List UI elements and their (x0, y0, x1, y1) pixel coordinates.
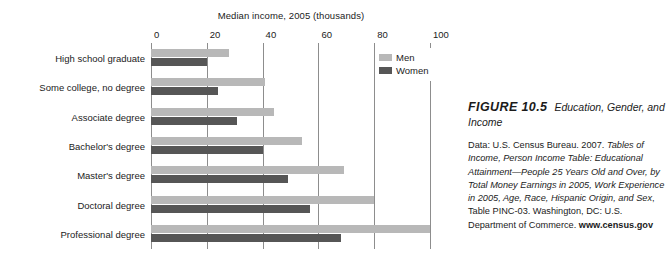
bar-women (151, 87, 218, 95)
x-tick-label-20: 20 (207, 29, 221, 40)
figure-heading: FIGURE 10.5Education, Gender, and Income (468, 100, 669, 130)
bar-group: Associate degree (151, 102, 430, 131)
bar-men (151, 196, 374, 204)
legend-label: Men (396, 51, 414, 64)
category-label: Some college, no degree (39, 82, 145, 93)
caption-panel: FIGURE 10.5Education, Gender, and Income… (468, 0, 669, 268)
bar-group: Professional degree (151, 220, 430, 249)
bar-group: Master's degree (151, 161, 430, 190)
x-tick-label-100: 100 (430, 29, 449, 40)
legend-swatch-women-icon (379, 67, 392, 74)
figure-number: FIGURE 10.5 (468, 100, 547, 114)
bar-women (151, 117, 237, 125)
bar-group: Bachelor's degree (151, 131, 430, 160)
chart-title: Median income, 2005 (thousands) (151, 10, 431, 21)
bar-men (151, 108, 274, 116)
x-tick-label-60: 60 (318, 29, 332, 40)
bar-group: Doctoral degree (151, 190, 430, 219)
bar-women (151, 205, 310, 213)
category-label: Professional degree (61, 229, 146, 240)
bar-men (151, 225, 430, 233)
caption-url-link[interactable]: www.census.gov (579, 220, 653, 230)
bar-women (151, 234, 341, 242)
figure-container: { "chart_data": { "type": "bar", "orient… (0, 0, 669, 268)
bar-women (151, 58, 207, 66)
bar-men (151, 49, 229, 57)
legend-label: Women (396, 64, 429, 77)
caption-source-text: Data: U.S. Census Bureau. 2007. Tables o… (468, 139, 669, 232)
category-label: Associate degree (72, 111, 145, 122)
category-label: Doctoral degree (77, 199, 145, 210)
bar-men (151, 166, 344, 174)
legend-item-men: Men (379, 51, 431, 64)
category-label: High school graduate (55, 52, 145, 63)
bar-women (151, 146, 263, 154)
chart-legend: MenWomen (375, 48, 431, 81)
bar-men (151, 137, 302, 145)
caption-data-prefix: Data: U.S. Census Bureau. 2007. (468, 140, 607, 150)
bar-women (151, 175, 288, 183)
legend-swatch-men-icon (379, 54, 392, 61)
category-label: Bachelor's degree (69, 140, 145, 151)
x-tick-label-80: 80 (374, 29, 388, 40)
chart-panel: Median income, 2005 (thousands) 02040608… (0, 0, 440, 268)
x-tick-label-40: 40 (263, 29, 277, 40)
x-tick-label-0: 0 (151, 29, 159, 40)
category-label: Master's degree (77, 170, 145, 181)
bar-men (151, 78, 265, 86)
legend-item-women: Women (379, 64, 431, 77)
